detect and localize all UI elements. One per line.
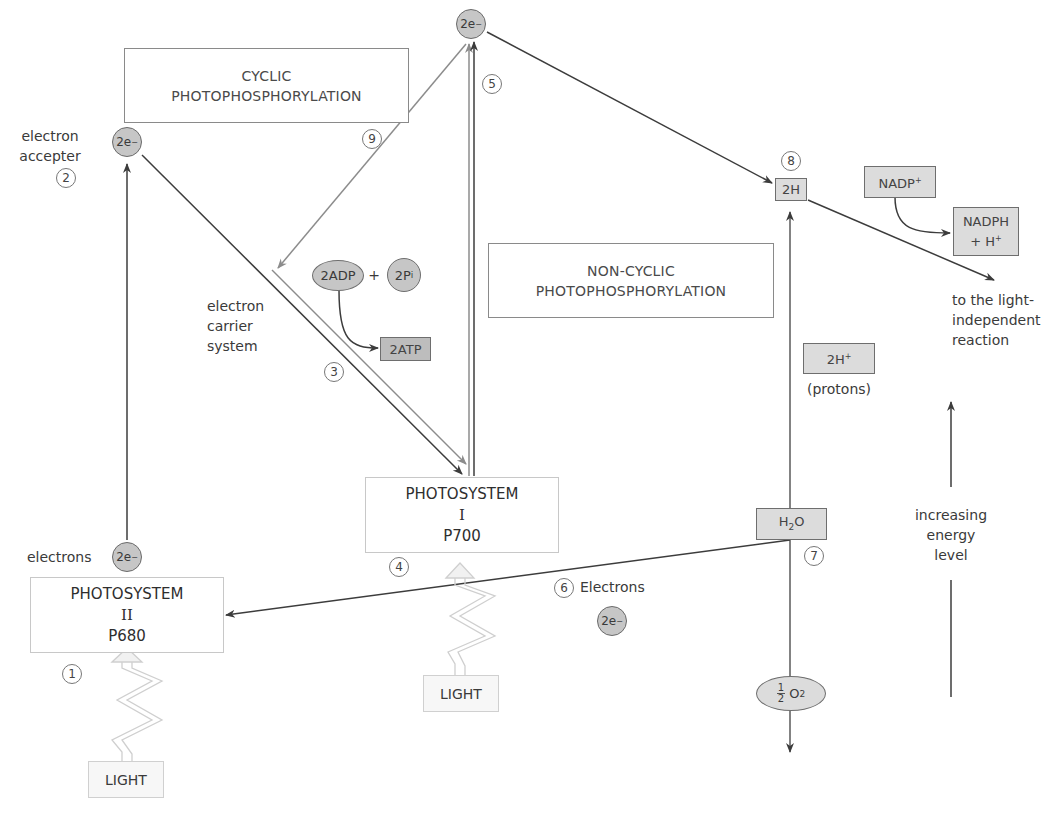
step-number-8: 8 — [781, 151, 801, 171]
increasing-energy-level-label: increasing energy level — [900, 505, 1002, 565]
photosystem-2-box: PHOTOSYSTEM II P680 — [30, 577, 224, 653]
atp-box: 2ATP — [380, 337, 431, 361]
arrow-acceptor-to-ps1-a — [142, 155, 462, 474]
ps1-line3: P700 — [443, 526, 481, 547]
non-cyclic-title-line1: NON-CYCLIC — [587, 261, 675, 281]
plus-sign: + — [367, 265, 381, 285]
nadp-box: NADP+ — [864, 166, 936, 198]
electron-carrier-system-label: electron carrier system — [207, 296, 287, 356]
arrow-acceptor-to-ps1-b — [272, 270, 466, 464]
diagram-connectors — [0, 0, 1063, 822]
step-number-4: 4 — [389, 557, 409, 577]
step-number-6: 6 — [554, 578, 574, 598]
step-number-7: 7 — [804, 546, 824, 566]
protons-box: 2H+ — [803, 343, 875, 374]
2h-box: 2H — [775, 178, 807, 201]
ps2-line1: PHOTOSYSTEM — [71, 584, 184, 605]
oxygen-ellipse: 1 2 O2 — [756, 676, 826, 711]
ps1-line1: PHOTOSYSTEM — [406, 484, 519, 505]
cyclic-photophosphorylation-box: CYCLIC PHOTOPHOSPHORYLATION — [124, 48, 409, 123]
step-number-1: 1 — [62, 664, 82, 684]
nadph-box: NADPH + H+ — [953, 207, 1019, 256]
step-number-3: 3 — [324, 362, 344, 382]
cyclic-title-line1: CYCLIC — [242, 66, 292, 86]
water-electrons-label: Electrons — [580, 577, 660, 597]
ps2-electrons-label: electrons — [27, 547, 109, 567]
phosphate-circle: 2Pi — [387, 258, 421, 292]
electron-ps1-excited-2e: 2e− — [456, 9, 486, 39]
non-cyclic-photophosphorylation-box: NON-CYCLIC PHOTOPHOSPHORYLATION — [488, 243, 774, 318]
ps2-line3: P680 — [108, 626, 146, 647]
arrow-adp-to-atp — [339, 290, 378, 348]
ps2-line2: II — [121, 605, 133, 626]
step-number-5: 5 — [482, 74, 502, 94]
step-number-9: 9 — [362, 129, 382, 149]
arrow-nadp-to-nadph — [895, 197, 950, 233]
arrow-electron-to-2h — [487, 32, 772, 183]
protons-label: (protons) — [797, 379, 881, 399]
electron-water-2e: 2e− — [597, 606, 627, 636]
non-cyclic-title-line2: PHOTOPHOSPHORYLATION — [536, 281, 727, 301]
step-number-2: 2 — [56, 168, 76, 188]
electron-acceptor-label: electron accepter — [0, 126, 100, 166]
water-box: H2O — [756, 508, 827, 540]
light-independent-reaction-label: to the light- independent reaction — [952, 290, 1062, 350]
ps1-line2: I — [459, 505, 465, 526]
cyclic-title-line2: PHOTOPHOSPHORYLATION — [171, 86, 362, 106]
light-zigzag-ps2 — [112, 648, 162, 762]
light-box-ps2: LIGHT — [88, 761, 164, 798]
adp-ellipse: 2ADP — [312, 260, 364, 291]
light-box-ps1: LIGHT — [423, 675, 499, 712]
electron-acceptor-2e: 2e− — [112, 127, 142, 157]
electron-ps2-2e: 2e− — [112, 542, 142, 572]
photosystem-1-box: PHOTOSYSTEM I P700 — [365, 477, 559, 553]
